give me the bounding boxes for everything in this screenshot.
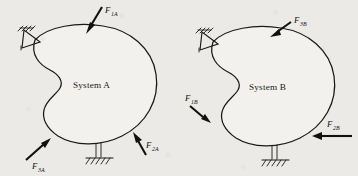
force-label-f3b-subscript: 3B	[299, 21, 307, 27]
force-label-f3a-symbol: F	[31, 161, 38, 171]
force-label-f1a-symbol: F	[104, 5, 111, 15]
system-a-group: System A F 1A	[18, 5, 159, 173]
force-label-f2b-symbol: F	[326, 119, 333, 129]
force-label-f1b-symbol: F	[184, 93, 191, 103]
force-label-f2b-subscript: 2B	[333, 125, 340, 131]
system-b-post-support	[262, 145, 289, 166]
force-arrow-f2a	[133, 132, 146, 155]
free-body-diagram-figure: System A F 1A	[0, 0, 358, 176]
system-a-label: System A	[73, 80, 110, 90]
force-label-f2a-subscript: 2A	[152, 146, 159, 152]
force-label-f3a-subscript: 3A	[37, 167, 45, 173]
system-a-post-support	[86, 143, 113, 164]
force-label-f1a-subscript: 1A	[111, 11, 118, 17]
force-arrow-f1b	[190, 106, 211, 123]
system-b-group: System B F 3B	[184, 15, 352, 166]
force-label-f2a-symbol: F	[145, 140, 152, 150]
force-arrow-f3a	[26, 138, 51, 160]
force-label-f1b-subscript: 1B	[191, 99, 198, 105]
diagram-canvas: System A F 1A	[0, 0, 358, 176]
system-b-label: System B	[249, 82, 286, 92]
force-arrow-f2b	[312, 132, 352, 140]
force-label-f3b-symbol: F	[293, 15, 300, 25]
